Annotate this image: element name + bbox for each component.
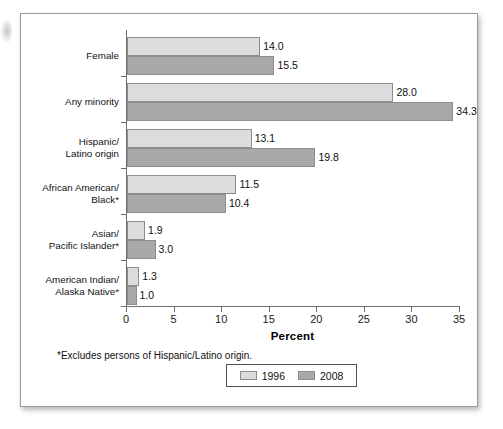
x-tick-30 (411, 307, 412, 312)
x-axis-line (126, 306, 460, 307)
y-tick-2 (121, 168, 126, 169)
bar-value-2008-1: 34.3 (456, 105, 476, 117)
legend-swatch-1996 (240, 371, 257, 380)
category-label-5: American Indian/ Alaska Native* (0, 274, 119, 298)
bar-value-1996-1: 28.0 (396, 86, 416, 98)
legend-label-2008: 2008 (320, 370, 343, 382)
x-tick-label-25: 25 (358, 313, 370, 325)
x-tick-label-30: 30 (405, 313, 417, 325)
x-tick-5 (174, 307, 175, 312)
x-axis-title: Percent (126, 330, 459, 342)
bar-2008-3[interactable] (127, 194, 226, 213)
legend-label-1996: 1996 (262, 370, 285, 382)
bar-1996-1[interactable] (127, 83, 393, 102)
x-tick-label-35: 35 (453, 313, 465, 325)
bar-2008-5[interactable] (127, 286, 137, 305)
x-tick-label-5: 5 (171, 313, 177, 325)
legend-entry-1996[interactable]: 1996 (240, 370, 285, 382)
x-tick-20 (316, 307, 317, 312)
bar-1996-0[interactable] (127, 37, 260, 56)
bar-value-1996-0: 14.0 (263, 40, 283, 52)
category-label-4: Asian/ Pacific Islander* (0, 228, 119, 252)
figure-frame: 05101520253035Female14.015.5Any minority… (20, 13, 478, 407)
bar-value-2008-3: 10.4 (229, 197, 249, 209)
y-tick-4 (121, 260, 126, 261)
x-tick-label-10: 10 (215, 313, 227, 325)
chart-legend: 1996 2008 (226, 364, 357, 387)
chart-footnote: *Excludes persons of Hispanic/Latino ori… (57, 350, 252, 361)
category-label-0: Female (0, 50, 119, 62)
category-label-1: Any minority (0, 96, 119, 108)
category-label-2: Hispanic/ Latino origin (0, 136, 119, 160)
x-tick-15 (269, 307, 270, 312)
y-tick-1 (121, 122, 126, 123)
bar-value-1996-4: 1.9 (148, 224, 163, 236)
x-tick-label-20: 20 (310, 313, 322, 325)
legend-entry-2008[interactable]: 2008 (298, 370, 343, 382)
y-tick-5 (121, 306, 126, 307)
x-tick-25 (364, 307, 365, 312)
legend-swatch-2008 (298, 371, 315, 380)
y-tick-0 (121, 76, 126, 77)
bar-value-2008-4: 3.0 (159, 243, 174, 255)
category-label-3: African American/ Black* (0, 182, 119, 206)
bar-2008-4[interactable] (127, 240, 156, 259)
bar-1996-5[interactable] (127, 267, 139, 286)
bar-value-1996-3: 11.5 (239, 178, 259, 190)
bar-1996-4[interactable] (127, 221, 145, 240)
bar-value-2008-5: 1.0 (140, 289, 155, 301)
bar-value-1996-2: 13.1 (255, 132, 275, 144)
y-tick-3 (121, 214, 126, 215)
bar-2008-2[interactable] (127, 148, 315, 167)
x-tick-35 (459, 307, 460, 312)
bar-1996-3[interactable] (127, 175, 236, 194)
bar-chart: 05101520253035Female14.015.5Any minority… (21, 14, 479, 408)
bar-1996-2[interactable] (127, 129, 252, 148)
bar-value-2008-2: 19.8 (318, 151, 338, 163)
bar-2008-0[interactable] (127, 56, 274, 75)
bar-value-1996-5: 1.3 (142, 270, 157, 282)
x-tick-10 (221, 307, 222, 312)
bar-2008-1[interactable] (127, 102, 453, 121)
bar-value-2008-0: 15.5 (277, 59, 297, 71)
x-tick-label-15: 15 (263, 313, 275, 325)
page-curl-shadow (0, 18, 12, 44)
x-tick-label-0: 0 (123, 313, 129, 325)
x-tick-0 (126, 307, 127, 312)
